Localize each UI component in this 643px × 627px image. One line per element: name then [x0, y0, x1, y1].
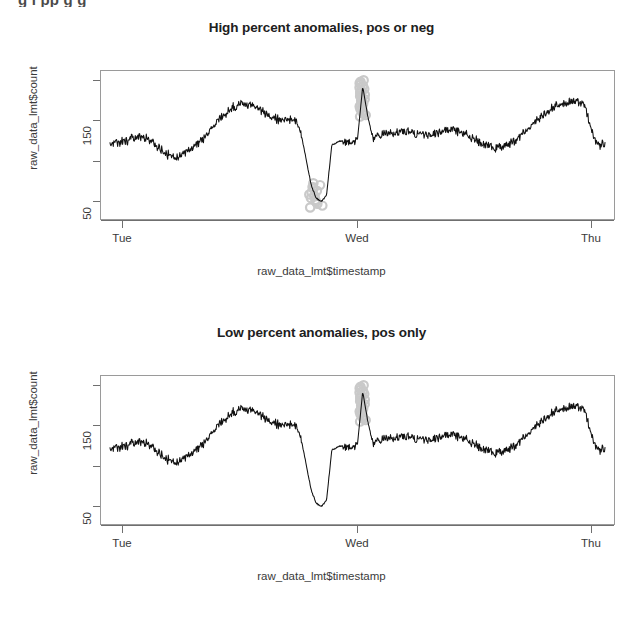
- x-tick-label: Tue: [112, 232, 131, 244]
- x-tick-label: Tue: [112, 537, 131, 549]
- negative-anomaly-markers: [305, 179, 326, 212]
- plot-title: High percent anomalies, pos or neg: [0, 20, 643, 35]
- x-tick-label: Wed: [345, 232, 368, 244]
- x-axis-title: raw_data_lmt$timestamp: [0, 265, 643, 277]
- x-tick-label: Thu: [581, 232, 601, 244]
- figure-page: g i pp g g High percent anomalies, pos o…: [0, 0, 643, 627]
- plot-1-canvas: [101, 71, 614, 219]
- x-tick-label: Thu: [581, 537, 601, 549]
- y-tick-label: 150: [81, 126, 93, 145]
- y-axis-title: raw_data_lmt$count: [27, 338, 39, 508]
- x-axis: Tue Wed Thu: [100, 525, 615, 534]
- plot-area: [100, 375, 615, 525]
- x-axis: Tue Wed Thu: [100, 220, 615, 229]
- x-tick-mark: [591, 525, 592, 533]
- y-tick-label: 150: [81, 431, 93, 450]
- x-tick-mark: [357, 220, 358, 228]
- panel-low-percent: Low percent anomalies, pos only raw_data…: [0, 325, 643, 615]
- x-tick-mark: [591, 220, 592, 228]
- x-tick-label: Wed: [345, 537, 368, 549]
- x-tick-mark: [357, 525, 358, 533]
- x-tick-mark: [122, 220, 123, 228]
- y-tick-label: 50: [81, 207, 93, 220]
- plot-area: [100, 70, 615, 220]
- y-axis-title: raw_data_lmt$count: [27, 33, 39, 203]
- panel-high-percent: High percent anomalies, pos or neg raw_d…: [0, 20, 643, 310]
- clipped-header-text: g i pp g g: [0, 0, 643, 7]
- plot-2-canvas: [101, 376, 614, 524]
- plot-title: Low percent anomalies, pos only: [0, 325, 643, 340]
- x-axis-title: raw_data_lmt$timestamp: [0, 570, 643, 582]
- x-tick-mark: [122, 525, 123, 533]
- y-tick-label: 50: [81, 512, 93, 525]
